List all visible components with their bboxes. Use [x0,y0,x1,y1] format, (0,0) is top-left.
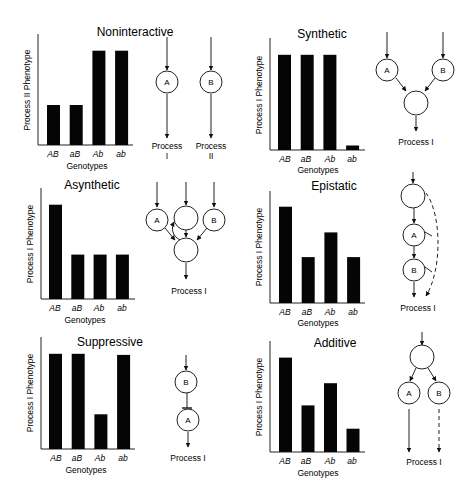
bar-ab [117,355,130,449]
panel-suppressive: Suppressive Process I Phenotype AB aB Ab… [25,335,206,475]
bar-chart: Asynthetic Process I Phenotype AB aB Ab … [25,178,135,325]
tick-aB: aB [72,453,83,463]
process-label: Process [196,141,227,151]
node-b-label: B [183,378,188,387]
arrow-tick-icon [425,267,432,272]
x-tick-labels: AB aB Ab ab [278,456,357,466]
chart-title: Asynthetic [64,178,119,192]
panel-asynthetic: Asynthetic Process I Phenotype AB aB Ab … [25,178,225,325]
y-axis-label: Process I Phenotype [254,208,264,287]
tick-AB: AB [49,453,62,463]
bar-aB [71,255,84,299]
node-unnamed [404,91,428,115]
bar-chart: Additive Process I Phenotype AB aB Ab ab… [254,336,365,478]
y-axis-label: Process II Phenotype [22,49,32,130]
bar-AB [47,105,60,145]
node-b-label: B [440,66,445,75]
y-axis-label: Process I Phenotype [254,358,264,437]
node-b-label: B [211,216,216,225]
figure-canvas: Noninteractive Process II Phenotype AB a… [0,0,476,498]
node-a-label: A [384,66,390,75]
tick-aB: aB [301,154,312,164]
tick-aB: aB [301,456,312,466]
tick-Ab: Ab [324,456,336,466]
pathway-diagram: A B Process I [398,332,450,467]
arrow-icon [197,228,207,240]
node-a-label: A [164,78,170,87]
node-a-label: A [185,416,191,425]
dashed-bypass-arrow-icon [426,193,438,296]
x-axis-label: Genotypes [65,465,106,475]
bar-AB [49,205,62,299]
process-label: Process I [406,457,441,467]
process-label: Process I [400,303,435,313]
chart-title: Epistatic [311,179,356,193]
bar-Ab [94,414,107,449]
tick-aB: aB [70,149,81,159]
node-a-label: A [154,216,160,225]
bar-Ab [324,232,337,303]
tick-aB: aB [72,303,83,313]
arrow-icon [396,78,406,91]
process-number: I [166,151,168,161]
bar-aB [302,405,315,452]
tick-ab: ab [117,303,127,313]
x-tick-labels: AB aB Ab ab [48,303,127,313]
bar-ab [115,51,128,145]
x-axis-label: Genotypes [297,318,338,328]
tick-ab: ab [116,149,126,159]
bar-aB [302,257,315,303]
node-b-label: B [436,389,441,398]
chart-title: Suppressive [77,335,143,349]
node-b-label: B [208,78,213,87]
node-unnamed [174,206,198,230]
y-axis-label: Process I Phenotype [25,205,35,284]
bar-chart: Synthetic Process I Phenotype AB aB Ab a… [254,27,365,175]
tick-Ab: Ab [93,303,105,313]
process-label: Process I [170,453,205,463]
x-tick-labels: AB aB Ab ab [278,154,357,164]
bar-AB [49,354,62,449]
bar-chart: Suppressive Process I Phenotype AB aB Ab… [25,335,143,475]
bar-ab [116,255,129,299]
bar-AB [279,358,292,452]
bar-aB [70,105,83,145]
bar-ab [346,146,359,151]
process-label: Process I [398,137,433,147]
bar-aB [72,354,85,449]
node-a-label: A [411,231,417,240]
tick-ab: ab [118,453,128,463]
tick-ab: ab [347,154,357,164]
node-unnamed [410,345,434,369]
bar-ab [347,257,360,303]
x-tick-labels: AB aB Ab ab [46,149,126,159]
pathway-diagram: B A Process I [170,355,205,463]
tick-Ab: Ab [324,154,336,164]
pathway-diagram: A B Process I [400,172,438,313]
arrow-tick-icon [425,232,432,236]
arrow-icon [428,368,436,381]
process-label: Process I [171,286,206,296]
x-axis-label: Genotypes [64,315,105,325]
bar-ab [347,429,360,452]
tick-AB: AB [46,149,59,159]
x-tick-labels: AB aB Ab ab [49,453,128,463]
node-unnamed [401,184,425,208]
x-axis-label: Genotypes [66,161,107,171]
process-label: Process [152,141,183,151]
node-a-label: A [406,389,412,398]
tick-AB: AB [278,154,291,164]
bar-AB [279,207,292,303]
tick-aB: aB [302,307,313,317]
pathway-diagram: A Process I B Process II [152,37,227,161]
y-axis-label: Process I Phenotype [254,56,264,135]
arrow-icon [425,78,435,91]
y-axis-label: Process I Phenotype [25,354,35,433]
bar-Ab [323,55,336,150]
x-axis-label: Genotypes [297,468,338,478]
tick-AB: AB [278,307,291,317]
tick-Ab: Ab [324,307,336,317]
bar-Ab [324,383,337,452]
pathway-diagram: A B Process I [376,32,454,147]
arrow-icon [410,368,416,381]
